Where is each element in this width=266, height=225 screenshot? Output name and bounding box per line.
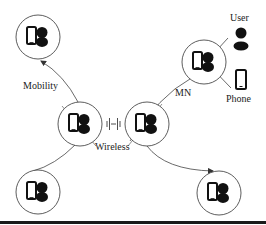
node-top-left	[16, 15, 60, 59]
edge-center-right-bottom-right	[147, 146, 213, 171]
node-bottom-left	[16, 170, 60, 214]
user-label: User	[230, 12, 249, 23]
node-mn	[182, 40, 226, 84]
mobility-label: Mobility	[23, 80, 58, 91]
node-bottom-right	[197, 171, 241, 215]
wireless-label: Wireless	[95, 141, 130, 152]
node-center-right	[125, 102, 169, 146]
mn-label: MN	[175, 87, 191, 98]
bottom-border	[0, 221, 266, 224]
phone-icon	[236, 70, 246, 89]
node-center-left	[58, 102, 102, 146]
phone-label: Phone	[226, 93, 251, 104]
edge-center-left-bottom-left	[33, 145, 75, 171]
user-icon	[234, 28, 249, 51]
wireless-signal-icon	[107, 118, 120, 130]
mobile-network-diagram	[0, 0, 266, 225]
